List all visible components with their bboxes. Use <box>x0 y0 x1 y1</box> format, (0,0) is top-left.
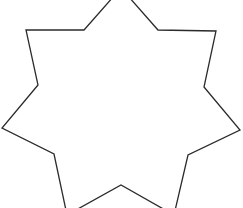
star-svg <box>0 0 243 208</box>
star-diagram-canvas <box>0 0 243 208</box>
seven-point-star-shape <box>2 0 240 208</box>
